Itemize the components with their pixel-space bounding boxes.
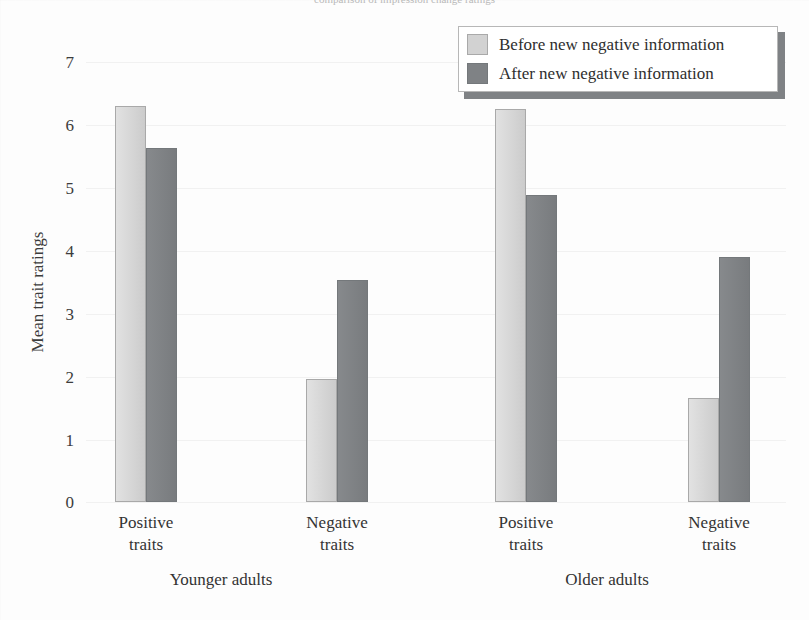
gridline-3 — [86, 314, 786, 315]
y-tick-label-4: 4 — [48, 243, 74, 260]
gridline-6 — [86, 125, 786, 126]
bar-younger-positive-after — [146, 148, 177, 502]
y-tick-label-6: 6 — [48, 117, 74, 134]
gridline-1 — [86, 440, 786, 441]
bar-younger-negative-before — [306, 379, 337, 502]
bar-older-negative-before — [688, 398, 719, 502]
y-tick-label-2: 2 — [48, 369, 74, 386]
gridline-2 — [86, 377, 786, 378]
category-label-line2: traits — [644, 534, 794, 556]
bar-younger-negative-after — [337, 280, 368, 502]
category-label-younger-negative: Negative traits — [262, 512, 412, 556]
bar-older-positive-before — [495, 109, 526, 502]
category-label-line2: traits — [262, 534, 412, 556]
legend-item-before[interactable]: Before new negative information — [467, 31, 724, 58]
gridline-0 — [86, 502, 786, 503]
legend-swatch-light-icon — [467, 34, 488, 55]
category-label-line1: Positive — [71, 512, 221, 534]
category-label-line2: traits — [71, 534, 221, 556]
y-tick-label-5: 5 — [48, 180, 74, 197]
legend-shadow-right — [778, 32, 785, 98]
bar-younger-positive-before — [115, 106, 146, 502]
y-tick-label-3: 3 — [48, 306, 74, 323]
legend-shadow-bottom — [464, 92, 785, 99]
legend-item-after[interactable]: After new negative information — [467, 60, 714, 87]
group-label-older-adults: Older adults — [477, 570, 737, 590]
legend-label-before: Before new negative information — [499, 35, 724, 54]
chart-legend: Before new negative information After ne… — [458, 26, 778, 92]
category-label-older-positive: Positive traits — [451, 512, 601, 556]
y-axis-title: Mean trait ratings — [28, 192, 48, 392]
gridline-5 — [86, 188, 786, 189]
category-label-line1: Negative — [644, 512, 794, 534]
bar-older-positive-after — [526, 195, 557, 502]
y-tick-label-0: 0 — [48, 494, 74, 511]
group-label-younger-adults: Younger adults — [91, 570, 351, 590]
bar-older-negative-after — [719, 257, 750, 502]
category-label-older-negative: Negative traits — [644, 512, 794, 556]
category-label-younger-positive: Positive traits — [71, 512, 221, 556]
legend-swatch-dark-icon — [467, 63, 488, 84]
bar-chart-plot: 7 6 5 4 3 2 1 0 Mean trait ratings Posit… — [0, 0, 809, 620]
y-tick-label-1: 1 — [48, 432, 74, 449]
category-label-line1: Positive — [451, 512, 601, 534]
figure-page: comparison of impression change ratings … — [0, 0, 809, 620]
gridline-4 — [86, 251, 786, 252]
y-tick-label-7: 7 — [48, 54, 74, 71]
category-label-line2: traits — [451, 534, 601, 556]
category-label-line1: Negative — [262, 512, 412, 534]
legend-label-after: After new negative information — [499, 64, 714, 83]
